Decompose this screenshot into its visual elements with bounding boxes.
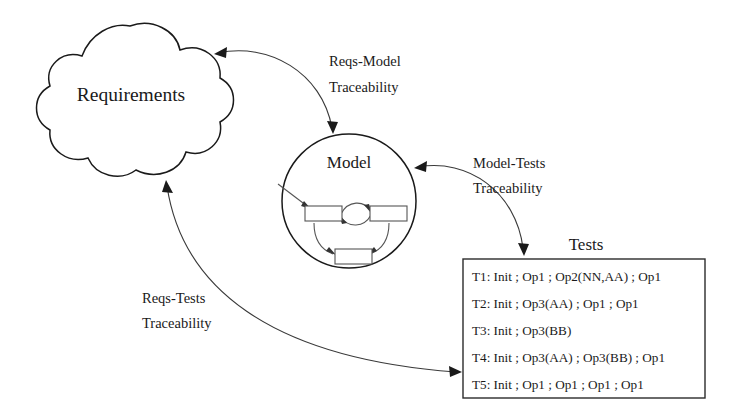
- requirements-node[interactable]: Requirements: [37, 23, 234, 176]
- edge-model-tests-label-line1: Model-Tests: [473, 155, 546, 171]
- tests-title: Tests: [569, 235, 604, 254]
- state-box-right: [370, 206, 407, 221]
- edge-model-tests-curve: [418, 166, 523, 248]
- test-line-3: T3: Init ; Op3(BB): [472, 323, 571, 338]
- edge-reqs-tests-label-line2: Traceability: [142, 315, 212, 331]
- edge-reqs-tests-arrowhead-tests: [449, 366, 462, 377]
- state-box-left: [305, 206, 342, 221]
- diagram-canvas: Requirements Model: [0, 0, 733, 420]
- test-line-4: T4: Init ; Op3(AA) ; Op3(BB) ; Op1: [472, 350, 665, 365]
- edge-reqs-tests-arrowhead-requirements: [162, 180, 173, 193]
- edge-reqs-model-arrowhead-requirements: [214, 47, 227, 58]
- edge-model-tests[interactable]: Model-Tests Traceability: [414, 155, 546, 256]
- test-line-5: T5: Init ; Op1 ; Op1 ; Op1 ; Op1: [472, 377, 644, 392]
- edge-model-tests-arrowhead-tests: [518, 243, 529, 256]
- traceability-diagram: Requirements Model: [0, 0, 733, 420]
- edge-reqs-model[interactable]: Reqs-Model Traceability: [214, 47, 401, 134]
- test-line-1: T1: Init ; Op1 ; Op2(NN,AA) ; Op1: [472, 269, 661, 284]
- edge-reqs-model-arrowhead-model: [327, 121, 338, 134]
- edge-model-tests-arrowhead-model: [414, 161, 427, 172]
- edge-reqs-tests-label-line1: Reqs-Tests: [142, 290, 206, 306]
- model-label: Model: [327, 153, 372, 172]
- test-line-2: T2: Init ; Op3(AA) ; Op1 ; Op1: [472, 296, 639, 311]
- model-node[interactable]: Model: [278, 134, 416, 268]
- state-box-bottom: [335, 249, 372, 264]
- edge-reqs-model-label-line1: Reqs-Model: [329, 53, 401, 69]
- edge-reqs-model-curve: [218, 51, 332, 128]
- edge-model-tests-label-line2: Traceability: [473, 180, 543, 196]
- tests-node[interactable]: Tests T1: Init ; Op1 ; Op2(NN,AA) ; Op1 …: [463, 235, 705, 398]
- edge-reqs-model-label-line2: Traceability: [329, 79, 399, 95]
- requirements-label: Requirements: [77, 84, 185, 105]
